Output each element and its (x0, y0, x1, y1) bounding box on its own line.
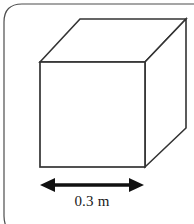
dimension-label: 0.3 m (40, 192, 144, 210)
cube-front-face (40, 62, 145, 167)
cube-diagram (0, 0, 194, 224)
figure-container: 0.3 m (0, 0, 194, 224)
dimension-arrow-head-right (129, 178, 144, 192)
width-dimension-arrow (40, 178, 144, 192)
cube-front-face-rect (40, 62, 145, 167)
dimension-arrow-head-left (40, 178, 55, 192)
